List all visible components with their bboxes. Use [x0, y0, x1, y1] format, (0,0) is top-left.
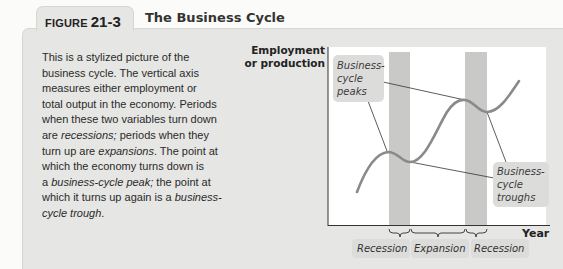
- troughs-callout-text: troughs: [497, 192, 535, 203]
- x-axis-label: Year: [521, 227, 550, 240]
- peaks-callout-text: cycle: [337, 73, 363, 84]
- recession-brace-1: [389, 229, 410, 237]
- troughs-callout-text: cycle: [497, 179, 523, 190]
- figure-label-word: FIGURE: [45, 17, 88, 29]
- figure-tab: FIGURE21-3: [36, 6, 134, 31]
- figure-label-number: 21-3: [91, 13, 121, 30]
- phase-label-recession-1: Recession: [357, 243, 407, 254]
- recession-brace-2: [466, 229, 487, 237]
- recession-band-2: [465, 52, 487, 225]
- figure-label: FIGURE21-3: [45, 13, 121, 31]
- recession-band-1: [389, 52, 410, 225]
- peaks-callout-text: Business-: [337, 60, 385, 71]
- phase-label-expansion: Expansion: [414, 243, 466, 254]
- phase-label-recession-2: Recession: [474, 243, 524, 254]
- expansion-brace: [411, 229, 465, 237]
- troughs-callout-text: Business-: [497, 166, 545, 177]
- peaks-callout-text: peaks: [336, 86, 367, 97]
